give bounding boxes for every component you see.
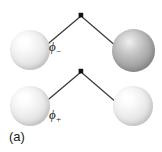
- antibonding-right-bond-line: [81, 16, 117, 47]
- bonding-right-sphere: [113, 86, 153, 126]
- antibonding-phi-symbol: ϕ: [49, 39, 56, 54]
- antibonding-orbital-label: ϕ−: [49, 40, 61, 56]
- bonding-vertex-dot: [79, 69, 84, 74]
- bonding-orbital-label: ϕ+: [49, 108, 61, 124]
- bonding-phi-subscript: +: [56, 114, 61, 124]
- bonding-right-bond-line: [81, 72, 117, 103]
- figure-panel-a: ϕ− ϕ+ (a): [0, 0, 162, 152]
- panel-label: (a): [9, 130, 25, 143]
- bonding-phi-symbol: ϕ: [49, 107, 56, 122]
- antibonding-right-sphere: [112, 29, 155, 72]
- bonding-left-sphere: [10, 86, 50, 126]
- antibonding-phi-subscript: −: [56, 46, 61, 56]
- antibonding-left-sphere: [10, 30, 50, 70]
- antibonding-vertex-dot: [79, 13, 84, 18]
